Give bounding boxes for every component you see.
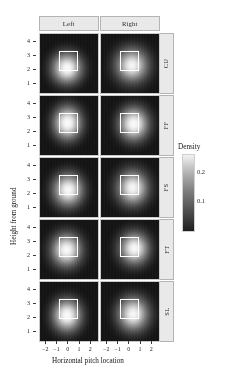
x-tick-mark [90,341,91,344]
column-header-strip-left: Left [39,16,100,31]
y-tick-mark [33,289,36,290]
y-tick-label: 4 [18,286,30,292]
heatmap-panel-fs-left [39,157,100,218]
heatmap-panel-sl-right [100,281,161,342]
heatmap-panel-cu-left [39,33,100,94]
y-tick-label: 4 [18,162,30,168]
y-tick-label: 4 [18,224,30,230]
x-tick-mark [67,341,68,344]
y-tick-mark [33,317,36,318]
y-tick-label: 1 [18,204,30,210]
heatmap-panel-ft-right [100,219,161,280]
y-tick-label: 1 [18,266,30,272]
y-tick-label: 2 [18,66,30,72]
legend-colorbar [182,154,195,232]
x-tick-mark [56,341,57,344]
heatmap-panel-ff-right [100,95,161,156]
y-tick-label: 1 [18,328,30,334]
row-header-strip-ff: FF [159,95,174,156]
x-tick-mark [106,341,107,344]
strike-zone-outline [59,175,78,195]
strike-zone-outline [120,113,139,133]
y-tick-mark [33,255,36,256]
x-tick-mark [128,341,129,344]
y-tick-mark [33,227,36,228]
y-tick-mark [33,193,36,194]
x-tick-mark [117,341,118,344]
strike-zone-outline [120,299,139,319]
strike-zone-outline [59,299,78,319]
y-tick-mark [33,103,36,104]
y-tick-mark [33,179,36,180]
y-tick-label: 3 [18,176,30,182]
y-tick-mark [33,55,36,56]
y-tick-mark [33,69,36,70]
y-tick-label: 3 [18,52,30,58]
heatmap-panel-ft-left [39,219,100,280]
legend-tick-label: 0.1 [197,198,205,204]
y-tick-mark [33,131,36,132]
y-tick-label: 3 [18,238,30,244]
y-tick-mark [33,41,36,42]
y-tick-mark [33,165,36,166]
x-tick-mark [79,341,80,344]
y-tick-label: 1 [18,142,30,148]
strike-zone-outline [120,175,139,195]
y-tick-label: 2 [18,252,30,258]
y-tick-mark [33,83,36,84]
row-header-strip-cu: CU [159,33,174,94]
column-header-strip-right: Right [100,16,161,31]
x-tick-label: 2 [144,346,158,352]
y-tick-mark [33,269,36,270]
x-tick-mark [45,341,46,344]
row-header-strip-sl: SL [159,281,174,342]
heatmap-panel-sl-left [39,281,100,342]
y-axis-label: Height from ground [10,188,18,246]
y-tick-label: 2 [18,190,30,196]
strike-zone-outline [59,237,78,257]
strike-zone-outline [120,51,139,71]
density-facet-figure: LeftRightCUFFFSFTSL43214321432143214321−… [0,0,229,385]
strike-zone-outline [59,51,78,71]
legend-title: Density [178,143,200,151]
y-tick-label: 2 [18,128,30,134]
y-tick-mark [33,207,36,208]
heatmap-panel-fs-right [100,157,161,218]
heatmap-panel-ff-left [39,95,100,156]
y-tick-mark [33,117,36,118]
x-tick-label: 2 [83,346,97,352]
x-axis-label: Horizontal pitch location [8,357,168,365]
y-tick-label: 4 [18,38,30,44]
y-tick-mark [33,241,36,242]
legend-tick-label: 0.2 [197,169,205,175]
row-header-label: FF [162,121,169,129]
y-tick-label: 3 [18,114,30,120]
x-tick-mark [151,341,152,344]
row-header-label: FT [162,245,169,253]
y-tick-label: 2 [18,314,30,320]
y-tick-label: 4 [18,100,30,106]
y-tick-label: 3 [18,300,30,306]
x-tick-mark [140,341,141,344]
column-header-label: Right [122,20,138,27]
row-header-label: CU [163,58,170,68]
y-tick-mark [33,145,36,146]
heatmap-panel-cu-right [100,33,161,94]
column-header-label: Left [63,20,75,27]
y-tick-mark [33,331,36,332]
row-header-label: FS [162,183,169,191]
y-tick-label: 1 [18,80,30,86]
row-header-strip-fs: FS [159,157,174,218]
strike-zone-outline [59,113,78,133]
row-header-strip-ft: FT [159,219,174,280]
row-header-label: SL [162,307,169,315]
strike-zone-outline [120,237,139,257]
y-tick-mark [33,303,36,304]
